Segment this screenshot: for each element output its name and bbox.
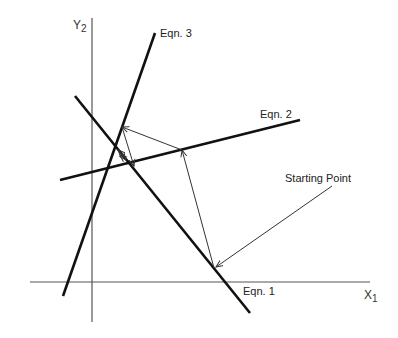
convergence-diagram	[0, 0, 398, 338]
starting-point-label: Starting Point	[285, 172, 351, 184]
x-axis-subscript: 1	[372, 293, 378, 304]
eqn3-line	[63, 33, 155, 296]
starting-point-pointer	[216, 186, 332, 267]
y-axis-letter: Y	[73, 18, 81, 32]
eqn1-label: Eqn. 1	[243, 285, 275, 297]
iteration-step	[122, 127, 182, 150]
x-axis-label: X1	[364, 288, 378, 304]
eqn3-label: Eqn. 3	[160, 27, 192, 39]
eqn1-line	[75, 96, 250, 313]
eqn2-line	[60, 120, 300, 180]
x-axis-letter: X	[364, 288, 372, 302]
y-axis-subscript: 2	[81, 23, 87, 34]
eqn2-label: Eqn. 2	[260, 108, 292, 120]
y-axis-label: Y2	[73, 18, 87, 34]
iteration-path	[118, 127, 214, 268]
